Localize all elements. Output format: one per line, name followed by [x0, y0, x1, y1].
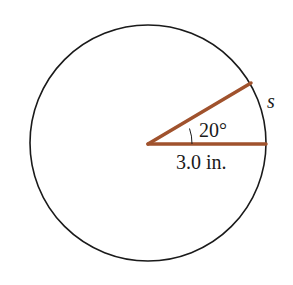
arc-length-label: s	[267, 90, 275, 112]
sector-diagram: 20° 3.0 in. s	[0, 0, 293, 285]
angle-arc-marker	[190, 129, 193, 145]
radius-label: 3.0 in.	[176, 151, 227, 173]
angle-label: 20°	[199, 119, 227, 141]
